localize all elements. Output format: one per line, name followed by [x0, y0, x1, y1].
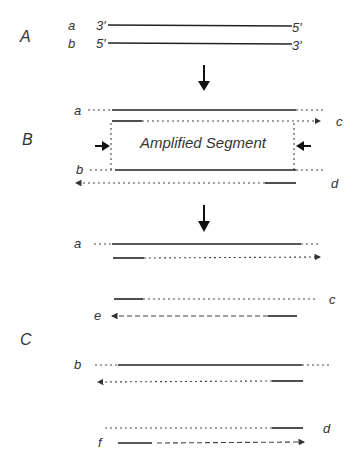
product-d-label: d	[323, 421, 331, 436]
down-arrow-icon	[198, 205, 210, 232]
strand-b-label: b	[76, 162, 83, 177]
strand-b-right-end: 3′	[292, 38, 302, 53]
extension-f	[157, 442, 304, 443]
strand-a-label: a	[74, 103, 81, 118]
amplified-segment-label: Amplified Segment	[139, 134, 267, 151]
strand-a-left-end: 3′	[96, 18, 106, 33]
product-c-label: c	[329, 292, 336, 307]
strand-a-line	[108, 25, 292, 26]
primer-c-label: c	[336, 114, 343, 129]
strand-b-left-end: 5′	[96, 36, 106, 51]
strand-b-line	[108, 43, 292, 44]
extension-line	[144, 257, 320, 258]
product-e-label: e	[94, 308, 101, 323]
right-arrow-icon	[95, 141, 110, 151]
extension-line	[98, 381, 272, 382]
panel-a-label: A	[19, 28, 31, 45]
pcr-diagram: A a b 3′ 5′ 5′ 3′ B a c Amplified Segmen…	[0, 0, 358, 462]
strand-b-label: b	[68, 36, 75, 51]
panel-b-label: B	[22, 131, 33, 148]
strand-a-label: a	[74, 236, 81, 251]
panel-c-label: C	[20, 331, 32, 348]
strand-a-label: a	[68, 18, 75, 33]
strand-b-label: b	[74, 357, 81, 372]
down-arrow-icon	[198, 65, 210, 91]
product-f-label: f	[98, 435, 103, 450]
left-arrow-icon	[296, 141, 311, 151]
primer-d-label: d	[331, 176, 339, 191]
strand-a-right-end: 5′	[292, 20, 302, 35]
